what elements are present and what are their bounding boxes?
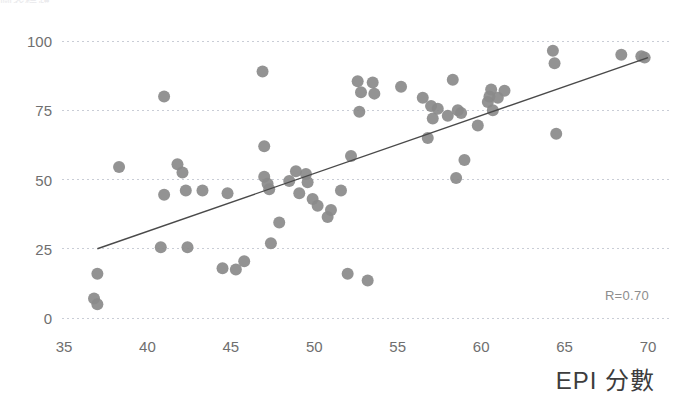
data-point bbox=[547, 45, 559, 57]
data-point bbox=[91, 298, 103, 310]
data-point bbox=[352, 75, 364, 87]
y-tick-label: 50 bbox=[0, 171, 52, 188]
data-point bbox=[158, 90, 170, 102]
x-tick-label: 35 bbox=[56, 338, 73, 355]
x-tick-label: 70 bbox=[640, 338, 657, 355]
data-point bbox=[325, 204, 337, 216]
data-point bbox=[273, 216, 285, 228]
data-point bbox=[368, 88, 380, 100]
data-point bbox=[222, 187, 234, 199]
data-point bbox=[113, 161, 125, 173]
data-point bbox=[450, 172, 462, 184]
data-point bbox=[355, 86, 367, 98]
x-tick-label: 65 bbox=[556, 338, 573, 355]
data-point bbox=[155, 241, 167, 253]
data-point bbox=[180, 185, 192, 197]
data-point bbox=[312, 200, 324, 212]
y-tick-label: 0 bbox=[0, 310, 52, 327]
x-tick-label: 45 bbox=[223, 338, 240, 355]
data-point bbox=[362, 275, 374, 287]
data-point bbox=[455, 107, 467, 119]
data-point bbox=[367, 77, 379, 89]
data-point bbox=[196, 185, 208, 197]
data-point bbox=[395, 81, 407, 93]
y-tick-label: 75 bbox=[0, 102, 52, 119]
scatter-chart: 圖表標題 1007550250 3540455055606570 R=0.70 … bbox=[0, 0, 677, 404]
data-point bbox=[639, 52, 651, 64]
data-point-group bbox=[88, 45, 651, 310]
data-point bbox=[257, 65, 269, 77]
x-axis-title: EPI 分數 bbox=[556, 361, 655, 396]
data-point bbox=[432, 103, 444, 115]
correlation-annotation: R=0.70 bbox=[605, 288, 649, 303]
data-point bbox=[181, 241, 193, 253]
data-point bbox=[615, 49, 627, 61]
data-point bbox=[549, 57, 561, 69]
data-point bbox=[265, 237, 277, 249]
data-point bbox=[472, 119, 484, 131]
data-point bbox=[342, 268, 354, 280]
x-tick-label: 60 bbox=[473, 338, 490, 355]
data-point bbox=[158, 189, 170, 201]
data-point bbox=[293, 187, 305, 199]
data-point bbox=[217, 262, 229, 274]
plot-area bbox=[0, 0, 677, 404]
data-point bbox=[335, 185, 347, 197]
data-point bbox=[176, 167, 188, 179]
data-point bbox=[353, 106, 365, 118]
data-point bbox=[447, 74, 459, 86]
data-point bbox=[458, 154, 470, 166]
data-point bbox=[499, 85, 511, 97]
data-point bbox=[91, 268, 103, 280]
data-point bbox=[238, 255, 250, 267]
y-tick-label: 100 bbox=[0, 33, 52, 50]
x-tick-label: 40 bbox=[139, 338, 156, 355]
x-tick-label: 50 bbox=[306, 338, 323, 355]
data-point bbox=[550, 128, 562, 140]
x-tick-label: 55 bbox=[389, 338, 406, 355]
data-point bbox=[302, 176, 314, 188]
y-tick-label: 25 bbox=[0, 240, 52, 257]
data-point bbox=[258, 140, 270, 152]
